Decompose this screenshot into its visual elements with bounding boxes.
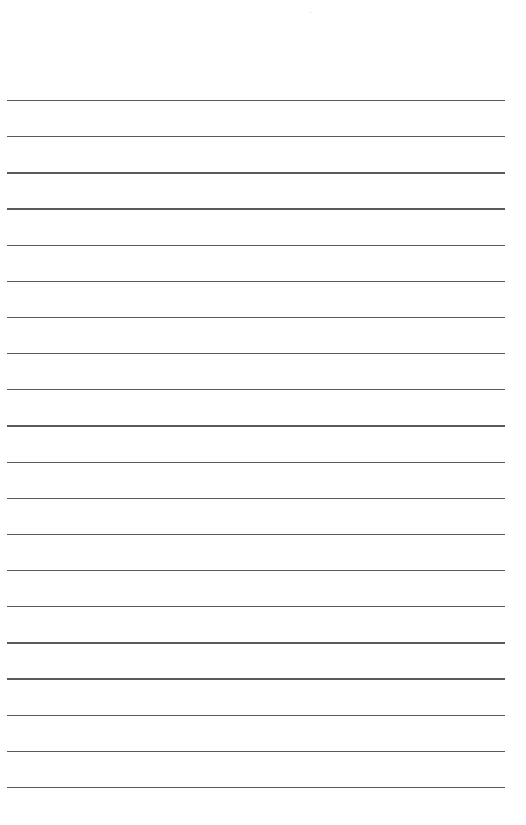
- ruled-line: [7, 462, 505, 463]
- ruled-line: [7, 208, 505, 209]
- ruled-line: [7, 136, 505, 137]
- ruled-line: [7, 245, 505, 246]
- ruled-line: [7, 353, 505, 354]
- ruled-line: [7, 642, 505, 643]
- paper-speck: [310, 12, 311, 13]
- ruled-line: [7, 498, 505, 499]
- ruled-line: [7, 281, 505, 282]
- ruled-line: [7, 787, 505, 788]
- ruled-line: [7, 570, 505, 571]
- ruled-line: [7, 751, 505, 752]
- ruled-line: [7, 317, 505, 318]
- ruled-line: [7, 389, 505, 390]
- ruled-line: [7, 425, 505, 426]
- ruled-line: [7, 172, 505, 173]
- ruled-line: [7, 606, 505, 607]
- lined-paper-page: [0, 0, 526, 825]
- ruled-line: [7, 100, 505, 101]
- ruled-line: [7, 534, 505, 535]
- ruled-line: [7, 678, 505, 679]
- ruled-line: [7, 715, 505, 716]
